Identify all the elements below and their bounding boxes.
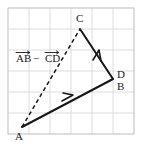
point-label-c: C — [76, 12, 83, 24]
expression-first-term: AB — [16, 52, 31, 64]
point-label-b-text: B — [117, 80, 124, 92]
expression-label: AB − CD — [16, 51, 60, 64]
expression-operator: − — [33, 52, 39, 64]
vector-diagram: A C D B AB − CD — [0, 0, 141, 149]
point-label-a-text: A — [15, 130, 23, 142]
expression-second-term: CD — [45, 52, 60, 64]
point-label-d: D — [117, 68, 125, 80]
point-label-a: A — [15, 130, 23, 142]
point-label-d-text: D — [117, 68, 125, 80]
point-label-b: B — [117, 80, 124, 92]
point-label-c-text: C — [76, 12, 83, 24]
vector-figure-svg: A C D B AB − CD — [0, 0, 141, 149]
